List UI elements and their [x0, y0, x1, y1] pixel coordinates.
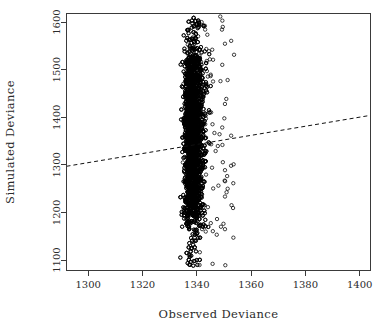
- x-tick-label: 1300: [75, 279, 100, 290]
- y-tick-label: 1100: [51, 247, 62, 272]
- y-tick-label: 1300: [51, 152, 62, 177]
- chart-canvas: 130013201340136013801400 110012001300140…: [0, 0, 387, 335]
- x-axis-title: Observed Deviance: [159, 307, 279, 321]
- y-tick-label: 1500: [51, 57, 62, 82]
- y-tick-label: 1600: [51, 9, 62, 34]
- x-tick-label: 1400: [347, 279, 372, 290]
- scatter-plot-figure: 130013201340136013801400 110012001300140…: [0, 0, 387, 335]
- x-tick-label: 1340: [184, 279, 209, 290]
- x-tick-label: 1320: [130, 279, 155, 290]
- x-tick-label: 1360: [238, 279, 263, 290]
- y-tick-label: 1400: [51, 105, 62, 130]
- y-axis-title: Simulated Deviance: [3, 80, 17, 204]
- x-tick-label: 1380: [293, 279, 318, 290]
- y-tick-label: 1200: [51, 200, 62, 225]
